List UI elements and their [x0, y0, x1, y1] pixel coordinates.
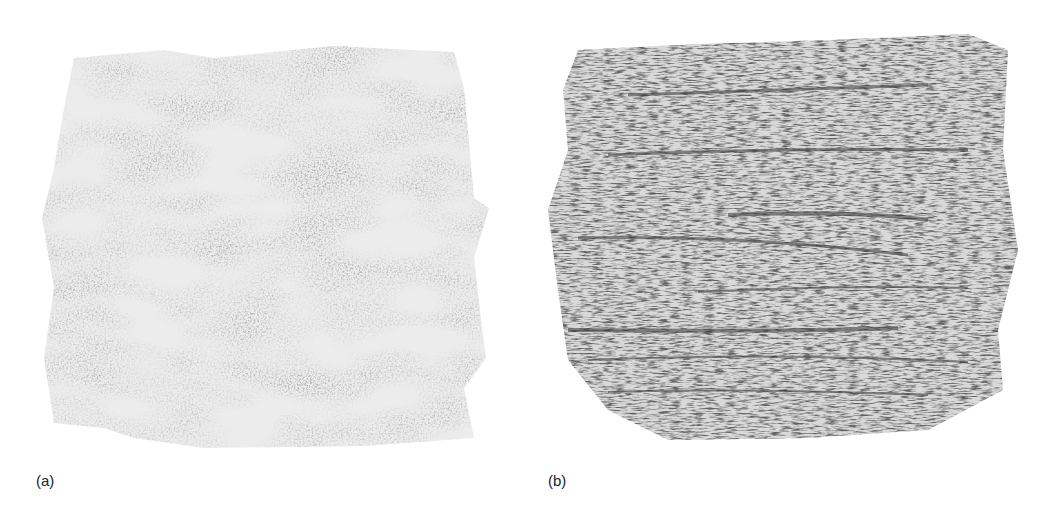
texture-image-b [548, 30, 1018, 450]
panel-label-a: (a) [36, 472, 54, 489]
texture-image-a [34, 28, 494, 452]
panel-label-b: (b) [548, 472, 566, 489]
